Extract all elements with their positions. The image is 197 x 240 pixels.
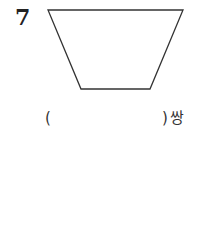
answer-open-paren: (: [45, 108, 51, 128]
answer-unit: 쌍: [170, 108, 184, 128]
answer-close-paren: ): [162, 108, 168, 128]
